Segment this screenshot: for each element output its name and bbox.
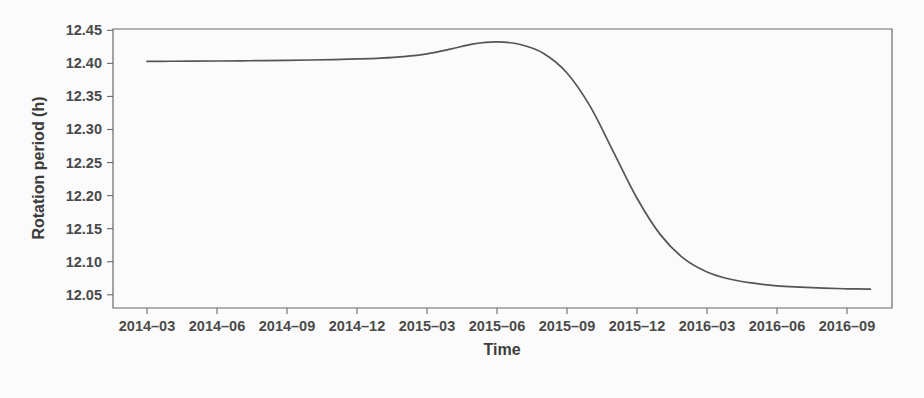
x-tick-label: 2015–06 <box>469 318 525 334</box>
x-tick-label: 2016–06 <box>749 318 805 334</box>
y-tick-label: 12.10 <box>66 254 102 270</box>
y-tick-label: 12.30 <box>66 121 102 137</box>
x-tick-label: 2015–03 <box>399 318 455 334</box>
chart-figure: 12.4512.4012.3512.3012.2512.2012.1512.10… <box>0 0 924 398</box>
y-tick-label: 12.15 <box>66 221 102 237</box>
y-tick-label: 12.05 <box>66 287 102 303</box>
y-tick-label: 12.35 <box>66 88 102 104</box>
x-tick-label: 2015–12 <box>609 318 665 334</box>
x-tick-label: 2014–09 <box>259 318 315 334</box>
y-tick-label: 12.45 <box>66 22 102 38</box>
x-tick-label: 2014–12 <box>329 318 385 334</box>
x-tick-label: 2016–09 <box>819 318 875 334</box>
y-axis-title: Rotation period (h) <box>30 96 47 239</box>
x-tick-label: 2015–09 <box>539 318 595 334</box>
figure-background <box>0 0 924 398</box>
x-axis-title: Time <box>483 341 520 358</box>
x-tick-label: 2016–03 <box>679 318 735 334</box>
x-tick-label: 2014–06 <box>189 318 245 334</box>
x-tick-label: 2014–03 <box>119 318 175 334</box>
y-tick-label: 12.25 <box>66 155 102 171</box>
y-tick-label: 12.20 <box>66 188 102 204</box>
y-tick-label: 12.40 <box>66 55 102 71</box>
rotation-period-line-chart: 12.4512.4012.3512.3012.2512.2012.1512.10… <box>0 0 924 398</box>
